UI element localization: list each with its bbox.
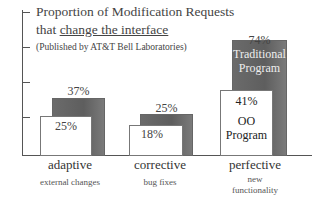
chart-title-line2: that change the interface (36, 22, 168, 38)
value-label-corrective-oo: 18% (129, 127, 175, 142)
value-label-corrective-traditional: 25% (140, 101, 193, 116)
y-axis (22, 10, 23, 156)
value-label-adaptive-traditional: 37% (52, 84, 105, 99)
category-corrective: corrective (120, 157, 200, 173)
y-tick (22, 82, 30, 83)
underlined-phrase: change the interface (60, 22, 169, 37)
value-label-perfective-oo: 41% (220, 94, 273, 108)
annotation-traditional-program: Traditional Program (232, 47, 287, 75)
desc-corrective: bug fixes (110, 177, 210, 188)
value-label-perfective-traditional: 74% (232, 33, 287, 48)
annotation-oo-program: 41% OO Program (220, 94, 273, 142)
value-label-adaptive-oo: 25% (40, 119, 92, 134)
y-tick (22, 47, 30, 48)
y-tick (22, 117, 30, 118)
category-adaptive: adaptive (30, 157, 110, 173)
y-tick (22, 12, 30, 13)
chart-title-line1: Proportion of Modification Requests (36, 4, 234, 20)
category-perfective: perfective (215, 157, 295, 173)
desc-perfective: new functionality (205, 174, 305, 196)
desc-adaptive: external changes (20, 177, 120, 188)
chart-subtitle: (Published by AT&T Bell Laboratories) (36, 42, 187, 52)
